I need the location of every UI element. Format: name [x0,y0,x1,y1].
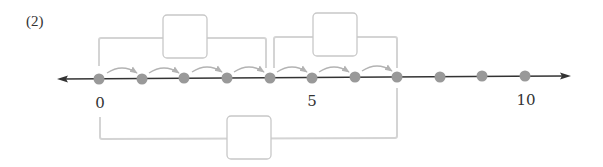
point-10 [520,71,531,82]
tick-label-5: 5 [307,92,317,110]
answer-box-bottom[interactable] [227,116,271,159]
point-3 [222,73,233,84]
answer-box-top-left[interactable] [163,15,207,58]
tick-label-10: 10 [516,91,535,109]
hop-arc [277,67,307,72]
hop-arc [107,68,137,73]
number-line-diagram: (2) 0 5 10 [0,0,603,167]
tick-label-0: 0 [95,94,105,112]
hop-arc [192,67,222,72]
point-2 [179,73,190,84]
point-1 [137,74,148,85]
point-4 [265,73,276,84]
point-5 [307,73,318,84]
hop-arcs [107,66,392,73]
hop-arc [149,68,179,73]
hop-arc [319,67,349,72]
point-6 [350,72,361,83]
point-8 [435,72,446,83]
hop-arc [362,66,392,71]
problem-label: (2) [26,13,44,30]
point-0 [94,74,105,85]
point-7 [392,72,403,83]
answer-box-top-right[interactable] [313,13,357,56]
number-line-points [94,71,531,85]
point-9 [477,71,488,82]
hop-arc [234,67,264,72]
